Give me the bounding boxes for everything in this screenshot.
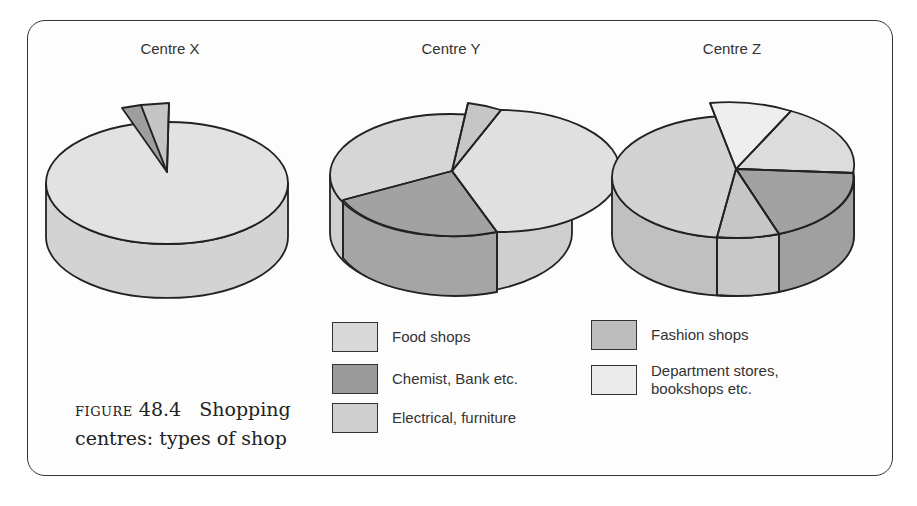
legend-label: Chemist, Bank etc. — [392, 370, 518, 388]
legend-item-electrical-furniture: Electrical, furniture — [332, 403, 516, 433]
pie-centre-y — [330, 103, 620, 296]
legend-swatch — [591, 365, 637, 395]
legend-item-food-shops: Food shops — [332, 322, 470, 352]
legend-label: Department stores, bookshops etc. — [651, 362, 779, 398]
pie-centre-x — [46, 103, 288, 298]
legend-label: Electrical, furniture — [392, 409, 516, 427]
legend-label: Food shops — [392, 328, 470, 346]
figure-title-line1: Shopping — [199, 398, 291, 420]
figure-label: FIGURE — [75, 404, 133, 419]
legend-swatch — [332, 364, 378, 394]
legend-label: Fashion shops — [651, 326, 749, 344]
pie-centre-z — [612, 102, 854, 296]
legend-swatch — [591, 320, 637, 350]
legend-item-department-stores: Department stores, bookshops etc. — [591, 362, 779, 398]
figure-title-line2: centres: types of shop — [75, 425, 291, 451]
legend-item-chemist-bank: Chemist, Bank etc. — [332, 364, 518, 394]
legend-swatch — [332, 403, 378, 433]
figure-number: 48.4 — [139, 398, 181, 420]
legend-item-fashion-shops: Fashion shops — [591, 320, 749, 350]
legend-swatch — [332, 322, 378, 352]
figure-caption: FIGURE 48.4 Shopping centres: types of s… — [75, 396, 291, 451]
